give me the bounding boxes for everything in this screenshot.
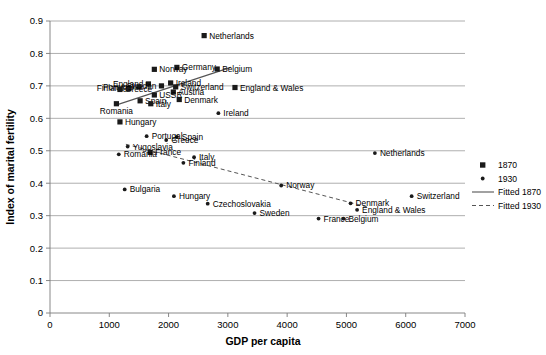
data-point-marker	[317, 217, 321, 221]
data-point-marker	[355, 208, 359, 212]
y-tick-label: 0.4	[30, 178, 43, 189]
data-point-marker	[349, 201, 353, 205]
x-tick-label: 1000	[99, 319, 120, 330]
y-tick-label: 0.1	[30, 275, 43, 286]
data-point-marker	[181, 161, 185, 165]
data-point-label: Greece	[125, 84, 153, 94]
data-point-marker	[123, 187, 127, 191]
scatter-chart: 00.10.20.30.40.50.60.70.80.9 01000200030…	[0, 0, 546, 355]
y-tick-label: 0.7	[30, 80, 43, 91]
data-point-label: Hungary	[125, 117, 157, 127]
data-point-label: Norway	[159, 64, 188, 74]
x-tick-label: 0	[47, 319, 52, 330]
data-point-label: Hungary	[179, 191, 211, 201]
x-tick-label: 3000	[217, 319, 238, 330]
data-point-label: Norway	[286, 180, 315, 190]
data-point-marker	[279, 184, 283, 188]
legend-label: 1930	[498, 174, 517, 184]
legend-label: Fitted 1870	[498, 187, 541, 197]
data-point-marker	[410, 194, 414, 198]
data-point-marker	[145, 134, 149, 138]
y-tick-label: 0.3	[30, 210, 43, 221]
y-tick-label: 0.8	[30, 48, 43, 59]
chart-legend: 18701930Fitted 1870Fitted 1930	[472, 160, 541, 211]
data-point-label: Ireland	[223, 108, 249, 118]
legend-marker-dot	[481, 177, 485, 181]
data-point-label: Romania	[100, 106, 134, 116]
data-point-marker	[168, 80, 173, 85]
data-point-marker	[232, 85, 237, 90]
data-point-label: Romania	[124, 149, 158, 159]
data-point-label: Sweden	[260, 208, 290, 218]
data-point-marker	[206, 202, 210, 206]
chart-canvas: 00.10.20.30.40.50.60.70.80.9 01000200030…	[0, 0, 546, 355]
legend-label: Fitted 1930	[498, 201, 541, 211]
data-point-label: France	[324, 214, 350, 224]
data-point-label: Netherlands	[380, 148, 425, 158]
data-point-marker	[342, 217, 346, 221]
data-point-marker	[117, 152, 121, 156]
data-point-marker	[148, 101, 153, 106]
data-point-marker	[202, 33, 207, 38]
data-point-label: Denmark	[184, 95, 219, 105]
data-point-marker	[373, 151, 377, 155]
data-point-label: Netherlands	[209, 31, 254, 41]
y-tick-label: 0.5	[30, 145, 43, 156]
data-point-label: Belgium	[222, 64, 252, 74]
x-axis-ticks: 01000200030004000500060007000	[47, 313, 475, 330]
x-tick-label: 6000	[395, 319, 416, 330]
y-axis-title: Index of marital fertility	[4, 109, 16, 225]
y-tick-label: 0.6	[30, 113, 43, 124]
data-point-marker	[117, 119, 122, 124]
y-tick-label: 0.9	[30, 15, 43, 26]
x-axis-title: GDP per capita	[225, 335, 300, 347]
data-point-marker	[215, 66, 220, 71]
data-point-marker	[126, 145, 130, 149]
x-tick-label: 4000	[277, 319, 298, 330]
data-point-label: England & Wales	[240, 83, 303, 93]
data-point-label: Greece	[171, 135, 199, 145]
data-point-label: Belgium	[348, 214, 378, 224]
x-tick-label: 5000	[336, 319, 357, 330]
data-point-label: Finland	[188, 158, 216, 168]
data-point-marker	[152, 67, 157, 72]
data-point-marker	[253, 211, 257, 215]
series-1930-points: NetherlandsIrelandSpainPortugalGreeceYug…	[117, 108, 460, 223]
data-point-marker	[172, 194, 176, 198]
data-point-marker	[159, 83, 164, 88]
data-point-label: Italy	[156, 99, 172, 109]
x-tick-label: 7000	[454, 319, 475, 330]
data-point-marker	[216, 111, 220, 115]
axes	[50, 21, 465, 313]
data-point-marker	[138, 98, 143, 103]
x-tick-label: 2000	[158, 319, 179, 330]
data-point-label: Bulgaria	[130, 184, 161, 194]
data-point-marker	[117, 87, 122, 92]
y-tick-label: 0.2	[30, 243, 43, 254]
data-point-marker	[177, 97, 182, 102]
data-point-label: Switzerland	[417, 191, 460, 201]
y-tick-label: 0	[38, 307, 43, 318]
y-axis-ticks: 00.10.20.30.40.50.60.70.80.9	[30, 15, 50, 318]
legend-marker-square	[480, 162, 485, 167]
legend-label: 1870	[498, 160, 517, 170]
